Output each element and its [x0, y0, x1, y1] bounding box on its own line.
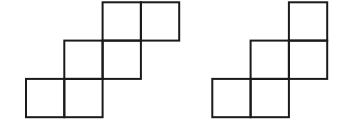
square-cell — [141, 2, 179, 40]
square-cell — [289, 2, 327, 40]
right-figure — [212, 2, 327, 117]
square-cell — [103, 41, 141, 79]
square-cell — [251, 41, 289, 79]
square-cell — [64, 79, 102, 117]
square-cell — [26, 79, 64, 117]
square-cell — [212, 79, 250, 117]
diagram-canvas — [0, 0, 346, 124]
left-figure — [26, 2, 179, 117]
square-cell — [289, 41, 327, 79]
square-cell — [64, 41, 102, 79]
square-cell — [103, 2, 141, 40]
square-cell — [251, 79, 289, 117]
